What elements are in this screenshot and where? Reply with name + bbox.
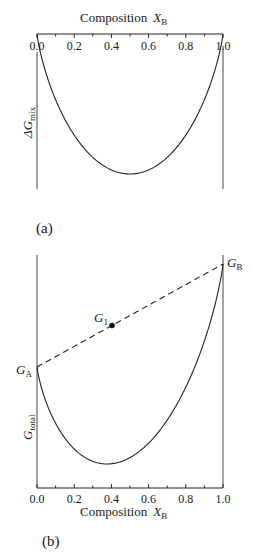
panel-b-x-axis-title: CompositionXB (80, 504, 167, 521)
delta-g-mix-curve (37, 34, 223, 174)
panel-a: CompositionXB 0.00.20.40.60.81.0 ΔGmix (… (20, 10, 231, 237)
tick-label: 0.2 (67, 39, 82, 53)
panel-b-label: (b) (42, 533, 60, 550)
ga-label: GA (16, 362, 32, 379)
tick-label: 0.8 (178, 39, 193, 53)
figure: CompositionXB 0.00.20.40.60.81.0 ΔGmix (… (0, 0, 253, 556)
tick-label: 0.6 (141, 39, 156, 53)
panel-a-y-axis-label: ΔGmix (20, 106, 37, 139)
panel-b-y-axis-label: Gtotal (20, 414, 37, 440)
tick-label: 0.0 (30, 39, 45, 53)
tick-label: 1.0 (216, 492, 231, 506)
gb-label: GB (227, 255, 242, 272)
panel-b: 0.00.20.40.60.81.0 CompositionXB Gtotal … (16, 255, 242, 550)
tick-label: 0.8 (178, 492, 193, 506)
tick-label: 0.4 (104, 39, 119, 53)
panel-a-tick-labels: 0.00.20.40.60.81.0 (30, 39, 231, 53)
g-total-curve (37, 264, 223, 464)
g1-label: G1 (94, 310, 108, 327)
tie-line-dashed (37, 264, 223, 367)
panel-a-label: (a) (36, 220, 53, 237)
panel-a-x-axis-title: CompositionXB (80, 10, 167, 27)
tick-label: 0.0 (30, 492, 45, 506)
g1-point (109, 323, 115, 329)
